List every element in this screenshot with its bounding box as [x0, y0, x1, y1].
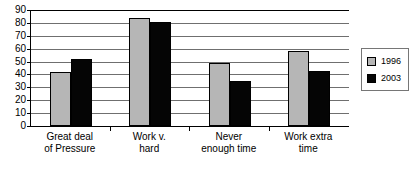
legend-swatch-1996 — [367, 57, 376, 66]
y-tick-label: 30 — [15, 82, 26, 92]
y-tick-mark — [27, 62, 31, 63]
plot-area — [30, 10, 349, 126]
y-tick-label: 90 — [15, 5, 26, 15]
category-label: Never enough time — [189, 131, 269, 155]
legend-item[interactable]: 1996 — [367, 54, 404, 68]
legend-label: 1996 — [381, 57, 401, 66]
bar[interactable] — [50, 72, 71, 126]
gridline — [31, 126, 349, 127]
x-tick-mark — [189, 126, 190, 131]
legend-item[interactable]: 2003 — [367, 71, 404, 85]
bar[interactable] — [309, 71, 330, 126]
bar[interactable] — [288, 51, 309, 126]
y-tick-mark — [27, 113, 31, 114]
bar[interactable] — [150, 22, 171, 126]
bar-group — [209, 10, 251, 126]
chart-legend: 19962003 — [361, 48, 409, 91]
y-tick-mark — [27, 87, 31, 88]
legend-label: 2003 — [381, 74, 401, 83]
y-tick-label: 80 — [15, 18, 26, 28]
x-tick-mark — [269, 126, 270, 131]
y-tick-mark — [27, 23, 31, 24]
y-tick-label: 70 — [15, 31, 26, 41]
y-axis: 9080706050403020100 — [0, 0, 28, 174]
y-tick-label: 40 — [15, 69, 26, 79]
y-tick-mark — [27, 74, 31, 75]
y-tick-mark — [27, 49, 31, 50]
y-tick-label: 0 — [20, 121, 26, 131]
category-label: Work extra time — [269, 131, 349, 155]
bar[interactable] — [209, 63, 230, 126]
y-tick-mark — [27, 10, 31, 11]
legend-swatch-2003 — [367, 74, 376, 83]
y-tick-label: 50 — [15, 57, 26, 67]
x-tick-mark — [110, 126, 111, 131]
y-tick-label: 20 — [15, 95, 26, 105]
y-tick-label: 60 — [15, 44, 26, 54]
bar-group — [50, 10, 92, 126]
y-tick-mark — [27, 100, 31, 101]
category-label: Work v. hard — [110, 131, 190, 155]
bar-group — [288, 10, 330, 126]
bar[interactable] — [230, 81, 251, 126]
bar-chart: 9080706050403020100 Great deal of Pressu… — [0, 0, 415, 174]
bar[interactable] — [71, 59, 92, 126]
bar-group — [129, 10, 171, 126]
y-tick-mark — [27, 126, 31, 127]
bar[interactable] — [129, 18, 150, 126]
y-tick-label: 10 — [15, 108, 26, 118]
y-tick-mark — [27, 36, 31, 37]
category-label: Great deal of Pressure — [30, 131, 110, 155]
